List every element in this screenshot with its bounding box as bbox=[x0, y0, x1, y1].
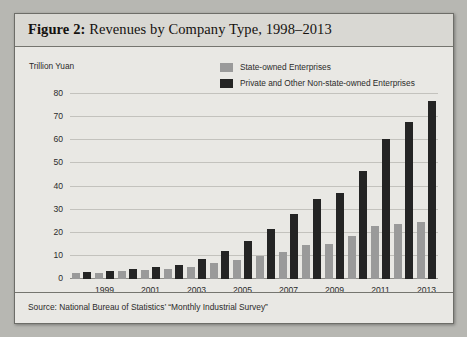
legend-swatch-icon bbox=[220, 63, 233, 72]
bar-state-owned bbox=[233, 260, 241, 279]
bar-state-owned bbox=[141, 270, 149, 279]
bar-state-owned bbox=[256, 256, 264, 279]
y-axis-tick-label: 60 bbox=[53, 134, 63, 144]
bar-group: 2011 bbox=[371, 94, 389, 279]
bar-group: 1999 bbox=[95, 94, 113, 279]
legend-swatch-icon bbox=[220, 79, 233, 88]
bar-group: 2013 bbox=[417, 94, 435, 279]
y-axis-unit-label: Trillion Yuan bbox=[29, 61, 74, 71]
bar-private bbox=[106, 271, 114, 279]
y-axis-tick-label: 40 bbox=[53, 181, 63, 191]
y-axis-tick-label: 10 bbox=[53, 250, 63, 260]
bar-private bbox=[83, 272, 91, 279]
legend-label: Private and Other Non-state-owned Enterp… bbox=[240, 78, 415, 88]
figure-title: Revenues by Company Type, 1998–2013 bbox=[89, 21, 332, 37]
bar-group: 2001 bbox=[141, 94, 159, 279]
y-axis-tick-label: 70 bbox=[53, 111, 63, 121]
bar-group: 2003 bbox=[187, 94, 205, 279]
figure-number: Figure 2: bbox=[28, 21, 85, 37]
bar-private bbox=[221, 251, 229, 279]
bar-private bbox=[267, 229, 275, 279]
legend-item: Private and Other Non-state-owned Enterp… bbox=[220, 76, 415, 90]
source-band: Source: National Bureau of Statistics’ “… bbox=[15, 292, 453, 323]
bar-state-owned bbox=[394, 224, 402, 279]
bar-private bbox=[405, 122, 413, 279]
bar-private bbox=[244, 241, 252, 279]
bar-private bbox=[129, 269, 137, 279]
bar-group bbox=[394, 94, 412, 279]
bar-state-owned bbox=[210, 263, 218, 279]
bar-state-owned bbox=[348, 236, 356, 279]
source-note: Source: National Bureau of Statistics’ “… bbox=[28, 302, 268, 312]
bar-private bbox=[152, 267, 160, 279]
bar-group bbox=[210, 94, 228, 279]
bar-group bbox=[72, 94, 90, 279]
plot-area: 01020304050607080 1999200120032005200720… bbox=[70, 94, 438, 279]
bar-state-owned bbox=[118, 271, 126, 279]
chart-body: Trillion Yuan State-owned EnterprisesPri… bbox=[15, 47, 453, 293]
y-axis-tick-label: 80 bbox=[53, 88, 63, 98]
bar-state-owned bbox=[417, 222, 425, 279]
bar-group bbox=[302, 94, 320, 279]
y-axis-tick-label: 0 bbox=[58, 273, 63, 283]
y-axis-tick-label: 50 bbox=[53, 157, 63, 167]
bar-group bbox=[118, 94, 136, 279]
page-title: Figure 2: Revenues by Company Type, 1998… bbox=[28, 21, 332, 38]
bar-private bbox=[313, 199, 321, 279]
bar-state-owned bbox=[279, 252, 287, 279]
bar-series-container: 19992001200320052007200920112013 bbox=[70, 94, 438, 279]
bar-private bbox=[428, 101, 436, 279]
figure-panel: Figure 2: Revenues by Company Type, 1998… bbox=[14, 13, 454, 324]
bar-group: 2007 bbox=[279, 94, 297, 279]
bar-state-owned bbox=[164, 269, 172, 279]
bar-state-owned bbox=[371, 226, 379, 279]
bar-state-owned bbox=[187, 267, 195, 279]
bar-state-owned bbox=[72, 273, 80, 279]
bar-state-owned bbox=[95, 273, 103, 279]
bar-group: 2009 bbox=[325, 94, 343, 279]
chart-legend: State-owned EnterprisesPrivate and Other… bbox=[220, 60, 415, 92]
bar-private bbox=[198, 259, 206, 279]
bar-private bbox=[290, 214, 298, 279]
bar-group bbox=[164, 94, 182, 279]
bar-group bbox=[256, 94, 274, 279]
bar-state-owned bbox=[302, 245, 310, 279]
figure-title-band: Figure 2: Revenues by Company Type, 1998… bbox=[15, 14, 453, 47]
y-axis-tick-label: 30 bbox=[53, 204, 63, 214]
y-axis-tick-label: 20 bbox=[53, 227, 63, 237]
bar-group: 2005 bbox=[233, 94, 251, 279]
bar-group bbox=[348, 94, 366, 279]
bar-state-owned bbox=[325, 244, 333, 279]
bar-private bbox=[382, 139, 390, 279]
bar-private bbox=[359, 171, 367, 279]
bar-private bbox=[336, 193, 344, 279]
legend-label: State-owned Enterprises bbox=[240, 62, 331, 72]
legend-item: State-owned Enterprises bbox=[220, 60, 415, 74]
bar-private bbox=[175, 265, 183, 279]
